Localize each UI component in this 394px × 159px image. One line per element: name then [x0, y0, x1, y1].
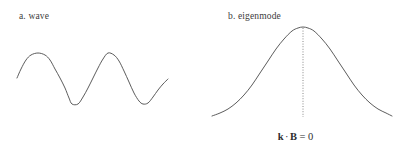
equation-k-dot-b: k·B=0	[197, 130, 394, 143]
equals-sign: =	[297, 131, 308, 142]
sine-wave-path	[17, 53, 168, 105]
vector-k-symbol: k	[278, 131, 284, 142]
gaussian-curve-path	[212, 27, 392, 116]
figure-container: a. wave b. eigenmode k·B=0	[0, 0, 394, 159]
panel-eigenmode: b. eigenmode k·B=0	[197, 0, 394, 159]
wave-curve-svg	[0, 0, 197, 159]
equation-value: 0	[308, 131, 313, 142]
panel-wave: a. wave	[0, 0, 197, 159]
